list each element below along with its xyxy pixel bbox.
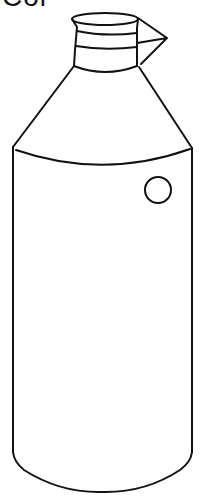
- body-base-curve: [13, 452, 192, 492]
- bottle-mouth-icon: [72, 13, 138, 25]
- bottle-illustration: [0, 0, 205, 499]
- neck-base-curve: [74, 66, 137, 72]
- shoulder-left: [13, 66, 74, 147]
- neck-band-1: [77, 31, 137, 35]
- body-top-curve: [16, 149, 190, 165]
- pour-spout-icon: [137, 18, 167, 64]
- neck-left-side: [72, 19, 77, 66]
- neck-band-2: [76, 46, 137, 49]
- shoulder-right: [139, 67, 192, 148]
- round-label-circle-icon: [145, 177, 171, 203]
